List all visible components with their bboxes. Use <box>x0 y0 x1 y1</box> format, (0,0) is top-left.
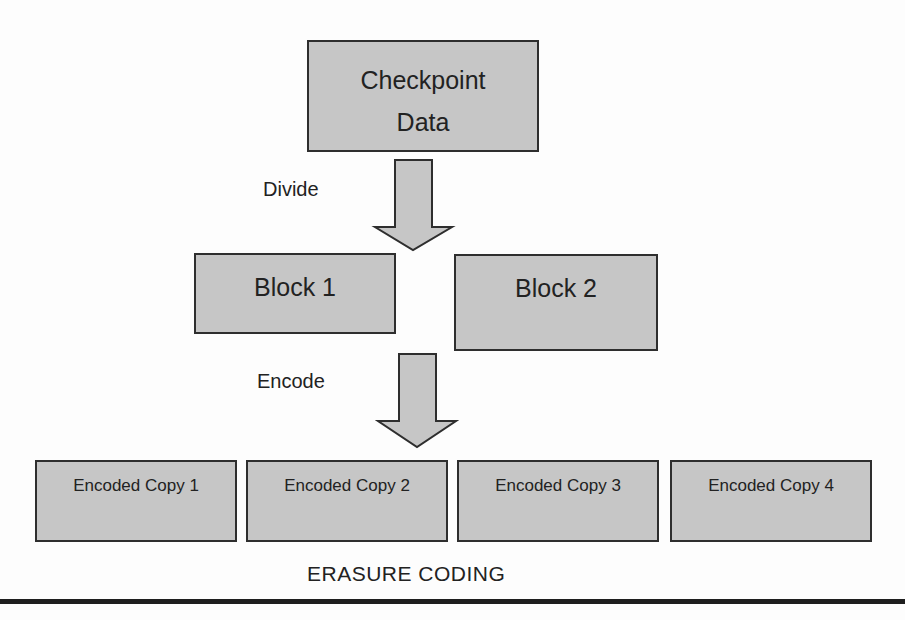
diagram-caption: ERASURE CODING <box>307 562 505 586</box>
encoded-copy-3-box: Encoded Copy 3 <box>457 460 659 542</box>
encoded-copy-1-label: Encoded Copy 1 <box>73 476 199 496</box>
encoded-copy-4-label: Encoded Copy 4 <box>708 476 834 496</box>
encoded-copy-1-box: Encoded Copy 1 <box>35 460 237 542</box>
encoded-copy-2-box: Encoded Copy 2 <box>246 460 448 542</box>
horizontal-rule <box>0 599 905 604</box>
encode-label: Encode <box>257 370 325 393</box>
encoded-copy-3-label: Encoded Copy 3 <box>495 476 621 496</box>
encoded-copy-2-label: Encoded Copy 2 <box>284 476 410 496</box>
encoded-copy-4-box: Encoded Copy 4 <box>670 460 872 542</box>
